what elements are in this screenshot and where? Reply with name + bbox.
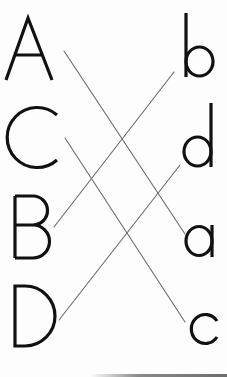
matching-diagram: A C B D b d a <box>0 0 227 377</box>
uppercase-letter-b: B <box>15 196 50 258</box>
lowercase-letter-a: a <box>186 225 212 257</box>
letter-matching-worksheet: Match uppercase letters to lowercase let… <box>0 0 227 377</box>
lowercase-letter-b: b <box>186 13 213 77</box>
connector-lines <box>54 51 185 322</box>
uppercase-letter-a: A <box>6 18 52 80</box>
connector-d-to-d <box>59 165 180 320</box>
connector-c-to-c <box>65 138 185 322</box>
lowercase-letter-c: c <box>191 315 217 344</box>
uppercase-letter-d: D <box>15 286 55 346</box>
uppercase-letter-c: C <box>7 108 57 168</box>
connector-a-to-a <box>64 51 185 234</box>
lowercase-letter-d: d <box>184 103 211 167</box>
